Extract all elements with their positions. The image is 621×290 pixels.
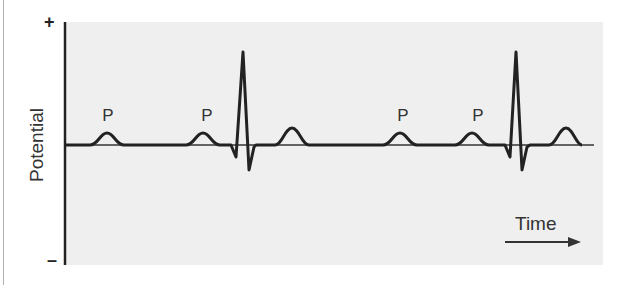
p-wave-label: P: [201, 106, 212, 126]
p-wave-label: P: [102, 106, 113, 126]
x-axis-label: Time: [515, 213, 557, 235]
ecg-diagram: [0, 0, 621, 290]
minus-label: –: [47, 250, 57, 271]
ecg-trace: [65, 52, 582, 170]
right-arrow-icon: [568, 237, 581, 247]
plus-label: +: [44, 12, 55, 33]
p-wave-label: P: [397, 106, 408, 126]
y-axis-label: Potential: [26, 108, 48, 182]
p-wave-label: P: [472, 106, 483, 126]
